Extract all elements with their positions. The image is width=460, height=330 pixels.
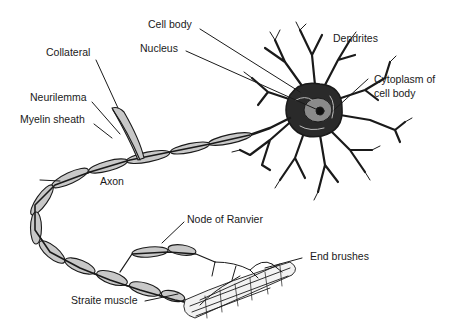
label-node-of-ranvier: Node of Ranvier [187,213,263,226]
label-axon: Axon [100,175,124,188]
label-cytoplasm-line1: Cytoplasm of [374,73,435,86]
label-straite-muscle: Straite muscle [71,294,138,307]
label-cell-body: Cell body [148,18,192,31]
label-cytoplasm-line2: cell body [374,87,415,100]
label-nucleus: Nucleus [140,42,178,55]
branch [120,243,215,272]
label-dendrites: Dendrites [333,32,378,45]
label-neurilemma: Neurilemma [30,91,87,104]
label-myelin-sheath: Myelin sheath [20,113,85,126]
muscle-fibers [184,262,296,318]
label-end-brushes: End brushes [310,250,369,263]
collateral [112,108,144,161]
label-collateral: Collateral [46,46,90,59]
neuron-diagram: Cell body Nucleus Dendrites Cytoplasm of… [0,0,460,330]
